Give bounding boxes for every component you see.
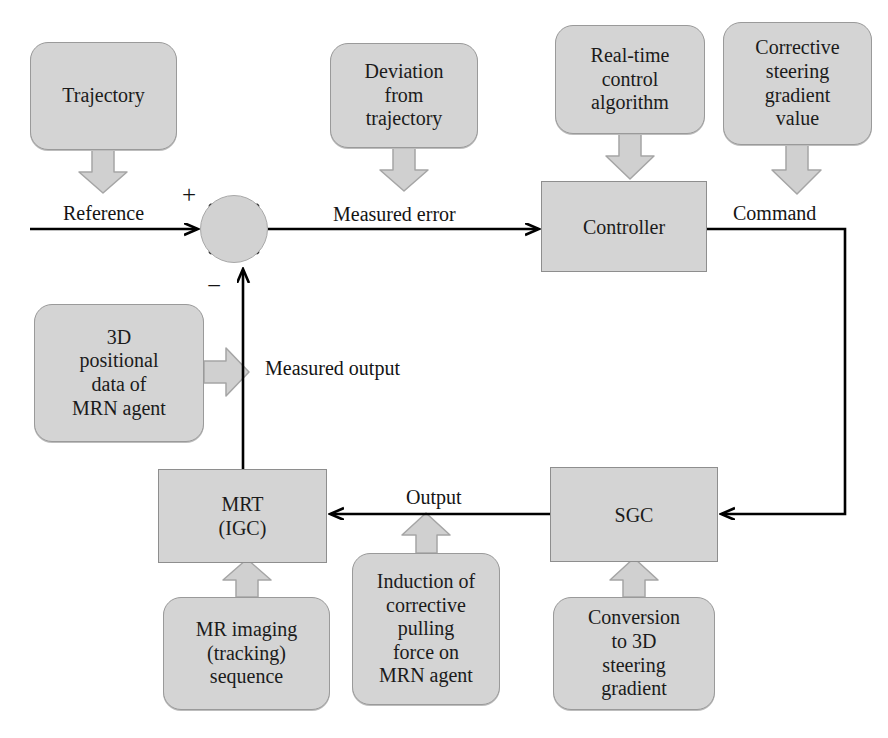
block-arrow-conversion-up <box>610 558 658 597</box>
source-box-positional-line-3: data of <box>92 373 147 397</box>
source-box-deviation-line-1: Deviation <box>365 60 444 84</box>
source-box-positional-line-1: 3D <box>107 326 131 350</box>
process-block-mrt-line-2: (IGC) <box>219 516 267 540</box>
block-arrow-deviation-down <box>380 148 428 191</box>
source-box-conversion-gradient: Conversion to 3D steering gradient <box>553 597 715 710</box>
source-box-induction-line-4: force on <box>393 641 459 665</box>
process-block-mrt: MRT (IGC) <box>158 469 327 563</box>
source-box-corrective-steering: Corrective steering gradient value <box>723 22 872 145</box>
source-box-trajectory: Trajectory <box>30 42 177 150</box>
signal-label-command: Command <box>733 203 816 223</box>
signal-line-command <box>707 229 845 514</box>
block-arrow-mrimaging-up <box>223 559 271 597</box>
source-box-realtime-line-2: control <box>602 68 659 92</box>
summing-junction-plus-sign: + <box>182 182 196 207</box>
source-box-mr-imaging: MR imaging (tracking) sequence <box>163 597 330 710</box>
block-arrow-positional-right <box>204 348 249 396</box>
source-box-corrective-line-1: Corrective <box>755 36 839 60</box>
source-box-trajectory-label: Trajectory <box>62 84 145 108</box>
block-arrow-corrective-down <box>772 145 821 194</box>
process-block-mrt-line-1: MRT <box>221 492 263 516</box>
source-box-deviation-line-2: from <box>385 84 424 108</box>
source-box-corrective-line-4: value <box>776 107 819 131</box>
source-box-deviation: Deviation from trajectory <box>330 43 478 148</box>
source-box-conversion-line-2: to 3D <box>612 630 657 654</box>
source-box-deviation-line-3: trajectory <box>366 107 443 131</box>
signal-label-output: Output <box>406 487 462 507</box>
source-box-corrective-line-2: steering <box>766 60 829 84</box>
signal-label-measured-error: Measured error <box>333 204 456 224</box>
source-box-corrective-line-3: gradient <box>765 84 831 108</box>
source-box-mr-imaging-line-1: MR imaging <box>196 618 298 642</box>
process-block-sgc: SGC <box>550 467 718 562</box>
process-block-controller: Controller <box>541 181 707 272</box>
source-box-realtime-line-3: algorithm <box>591 91 669 115</box>
source-box-realtime-line-1: Real-time <box>591 44 670 68</box>
process-block-controller-label: Controller <box>583 215 665 239</box>
block-arrow-trajectory-down <box>79 150 127 193</box>
block-arrow-induction-up <box>402 513 450 553</box>
source-box-conversion-line-1: Conversion <box>588 606 680 630</box>
source-box-conversion-line-3: steering <box>602 654 665 678</box>
source-box-mr-imaging-line-3: sequence <box>210 665 283 689</box>
source-box-conversion-line-4: gradient <box>601 677 667 701</box>
source-box-realtime-algorithm: Real-time control algorithm <box>555 25 705 134</box>
source-box-induction-line-2: corrective <box>386 594 466 618</box>
source-box-induction-line-3: pulling <box>398 617 455 641</box>
source-box-positional-data: 3D positional data of MRN agent <box>34 304 204 442</box>
summing-junction <box>200 195 268 263</box>
process-block-sgc-label: SGC <box>615 503 654 527</box>
source-box-induction-force: Induction of corrective pulling force on… <box>352 553 500 705</box>
signal-label-measured-output: Measured output <box>265 358 400 378</box>
source-box-positional-line-2: positional <box>80 349 159 373</box>
signal-label-reference: Reference <box>63 203 144 223</box>
block-arrow-realtime-down <box>606 134 654 179</box>
source-box-positional-line-4: MRN agent <box>72 397 166 421</box>
source-box-induction-line-1: Induction of <box>377 570 475 594</box>
source-box-induction-line-5: MRN agent <box>379 664 473 688</box>
summing-junction-minus-sign: − <box>207 273 221 298</box>
block-diagram-canvas: + − Trajectory Deviation from trajectory… <box>0 0 888 738</box>
source-box-mr-imaging-line-2: (tracking) <box>207 642 286 666</box>
